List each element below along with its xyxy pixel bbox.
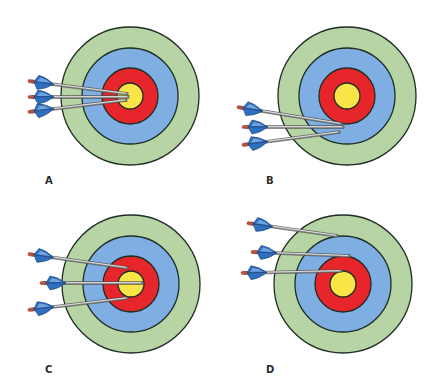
archery-targets-diagram [0,0,438,392]
fletching [34,97,54,104]
fletching [248,127,268,134]
target-panel-d [241,215,412,353]
target-panel-b [236,27,416,165]
target-panel-c [27,215,200,353]
fletching [247,272,267,279]
fletching [257,252,277,260]
bullseye [334,83,360,109]
target-panel-a [27,27,199,165]
panel-label-c: C [45,364,52,375]
panel-label-b: B [266,175,274,186]
panel-label-d: D [266,364,274,375]
panel-label-a: A [45,175,53,186]
bullseye [330,271,356,297]
